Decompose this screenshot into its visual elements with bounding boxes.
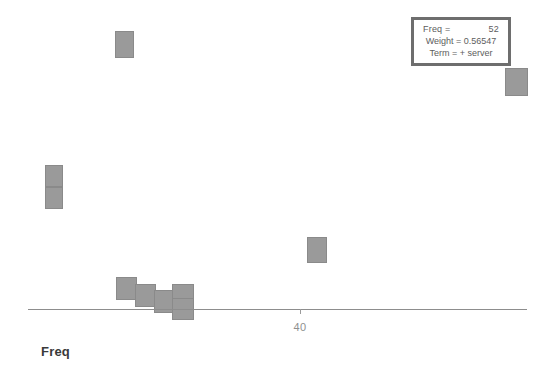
x-axis-tick-label: 40 <box>293 321 306 333</box>
data-point-marker[interactable] <box>45 187 63 209</box>
tooltip-freq-value: 52 <box>489 23 499 35</box>
data-point-marker[interactable] <box>135 284 156 307</box>
data-point-marker[interactable] <box>115 31 134 58</box>
tooltip-freq-label: Freq = <box>423 23 450 35</box>
tooltip-weight-row: Weight = 0.56547 <box>419 35 503 47</box>
x-axis-line <box>28 309 527 310</box>
scatter-plot-screen: 40 Freq Freq = 52 Weight = 0.56547 Term … <box>0 0 538 381</box>
data-point-marker[interactable] <box>116 277 137 300</box>
data-point-marker[interactable] <box>45 165 63 187</box>
x-axis-tick <box>300 309 301 314</box>
tooltip-freq-row: Freq = 52 <box>419 23 503 35</box>
data-point-marker[interactable] <box>505 68 528 96</box>
x-axis-title: Freq <box>41 344 70 359</box>
tooltip-term-row: Term = + server <box>419 47 503 59</box>
data-point-tooltip: Freq = 52 Weight = 0.56547 Term = + serv… <box>411 17 511 66</box>
data-point-marker[interactable] <box>307 237 327 263</box>
